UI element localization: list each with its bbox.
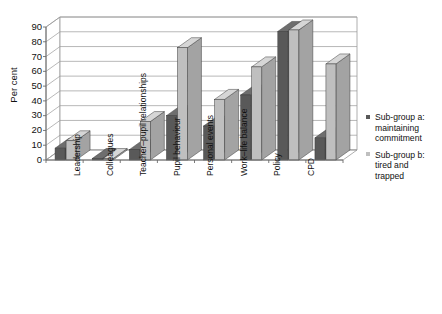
- legend-a-line2: maintaining: [375, 123, 442, 134]
- bar-chart: Per cent 90 80 70 60 50 40 30 20 10 0 Le…: [0, 0, 442, 314]
- x-label-pupil-behaviour: Pupil behaviour: [172, 117, 182, 176]
- chart-legend: Sub-group a: maintaining commitment Sub-…: [366, 112, 442, 187]
- x-label-teacher-pupil: Teacher–pupil relationships: [138, 73, 148, 176]
- legend-b-line3: trapped: [375, 171, 442, 182]
- x-label-colleagues: Colleagues: [105, 133, 115, 176]
- legend-a-line3: commitment: [375, 133, 442, 144]
- x-label-cpd: CPD: [306, 158, 316, 176]
- square-marker-icon: [366, 115, 370, 119]
- legend-item-subgroup-a: Sub-group a: maintaining commitment: [366, 112, 442, 144]
- square-marker-icon: [366, 152, 370, 156]
- x-label-policy: Policy: [272, 153, 282, 176]
- legend-item-subgroup-b: Sub-group b: tired and trapped: [366, 150, 442, 182]
- x-label-personal-events: Personal events: [205, 115, 215, 176]
- x-label-leadership: Leadership: [72, 134, 82, 176]
- legend-a-line1: Sub-group a:: [375, 112, 442, 123]
- legend-b-line2: tired and: [375, 160, 442, 171]
- legend-b-line1: Sub-group b:: [375, 150, 442, 161]
- x-label-work-life-balance: Work–life balance: [239, 109, 249, 176]
